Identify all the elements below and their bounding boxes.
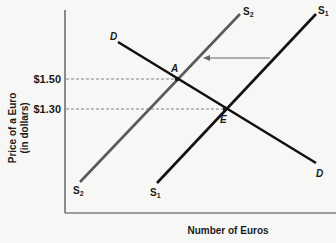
s1-label-bottom: S1 (150, 187, 161, 199)
s2-label-top: S2 (243, 6, 254, 18)
x-axis-title: Number of Euros (187, 225, 269, 236)
point-e-label: E (220, 114, 227, 125)
y-tick-label-1-30: $1.30 (33, 103, 61, 115)
s1-label-top: S1 (318, 5, 329, 17)
y-tick-label-1-50: $1.50 (33, 73, 61, 85)
y-axis-title-line2: (in dollars) (19, 102, 30, 153)
supply-demand-chart: Price of a Euro (in dollars) Number of E… (0, 0, 336, 243)
point-a-marker (175, 77, 179, 81)
supply-curve-s1 (157, 14, 316, 183)
demand-label-bottom: D (316, 168, 323, 179)
point-a-label: A (170, 63, 178, 74)
supply-curve-s2 (80, 14, 240, 182)
point-e-marker (223, 107, 227, 111)
demand-label-top: D (110, 31, 117, 42)
arrow-left-icon (203, 55, 210, 61)
y-axis-title-line1: Price of a Euro (7, 93, 18, 164)
s2-label-bottom: S2 (73, 185, 84, 197)
demand-curve-d (118, 42, 316, 163)
